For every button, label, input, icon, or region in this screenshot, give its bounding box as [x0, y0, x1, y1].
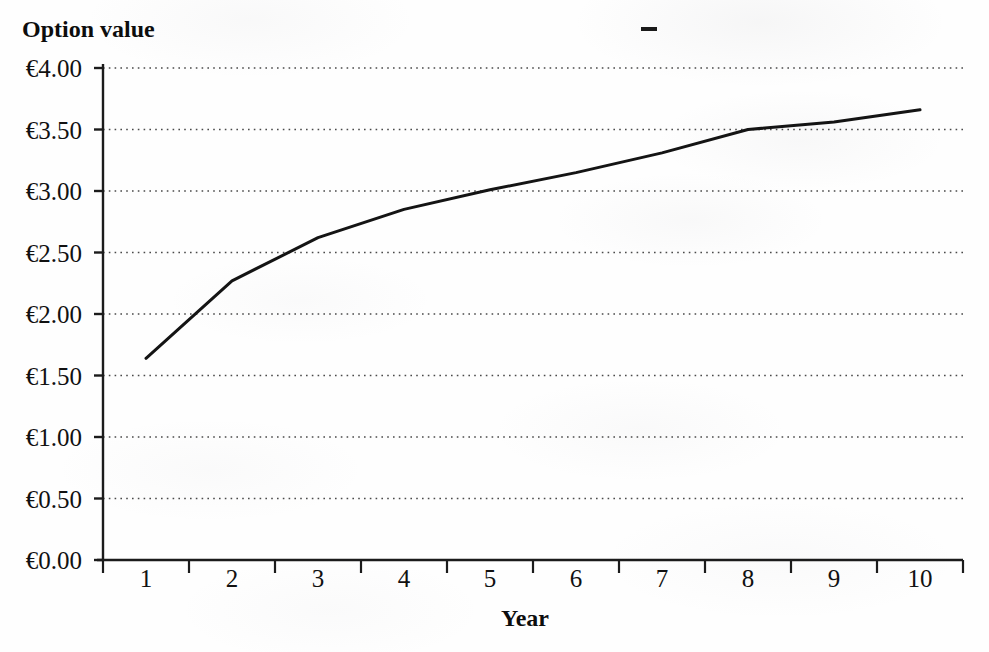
- option-value-data-line: [146, 110, 920, 358]
- y-axis-label: €1.50: [0, 364, 82, 389]
- x-axis-label: 10: [880, 566, 960, 591]
- y-axis-label: €0.50: [0, 487, 82, 512]
- x-axis-label: 7: [622, 566, 702, 591]
- scan-artifact-dash-icon: [641, 27, 657, 31]
- x-axis-label: 6: [536, 566, 616, 591]
- x-axis-label: 5: [450, 566, 530, 591]
- x-axis-label: 4: [364, 566, 444, 591]
- y-axis-label: €4.00: [0, 56, 82, 81]
- x-axis-label: 3: [278, 566, 358, 591]
- y-axis-label: €2.50: [0, 241, 82, 266]
- y-axis-label: €0.00: [0, 548, 82, 573]
- gridline-group: [103, 68, 967, 499]
- y-axis-label: €3.00: [0, 179, 82, 204]
- x-axis-label: 2: [192, 566, 272, 591]
- x-axis-title-year: Year: [0, 606, 989, 630]
- y-axis-label: €1.00: [0, 425, 82, 450]
- line-chart-canvas: [0, 0, 989, 652]
- x-axis-label: 9: [794, 566, 874, 591]
- x-axis-label: 8: [708, 566, 788, 591]
- y-axis-label: €3.50: [0, 118, 82, 143]
- x-axis-label: 1: [106, 566, 186, 591]
- y-axis-label: €2.00: [0, 302, 82, 327]
